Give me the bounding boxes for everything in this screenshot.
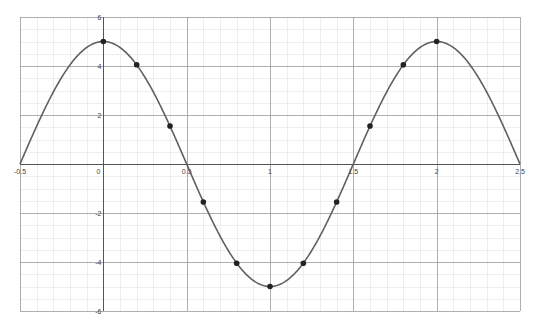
y-tick-label: 4 bbox=[98, 63, 102, 70]
data-point bbox=[434, 39, 440, 45]
y-tick-label: 6 bbox=[98, 14, 102, 21]
cosine-plot: -0.500.511.522.5642-2-4-6 bbox=[0, 0, 539, 331]
data-point bbox=[401, 62, 407, 68]
data-point bbox=[267, 284, 273, 290]
data-point bbox=[167, 123, 173, 129]
x-tick-label: 2.5 bbox=[515, 168, 525, 175]
data-point bbox=[234, 260, 240, 266]
x-tick-label: 2 bbox=[435, 168, 439, 175]
x-tick-label: 1 bbox=[268, 168, 272, 175]
data-point bbox=[101, 39, 107, 45]
y-tick-label: 2 bbox=[98, 112, 102, 119]
axes bbox=[20, 17, 520, 311]
data-point bbox=[367, 123, 373, 129]
y-tick-label: -2 bbox=[95, 210, 101, 217]
data-point bbox=[201, 199, 207, 205]
data-point bbox=[301, 260, 307, 266]
x-tick-label: -0.5 bbox=[14, 168, 26, 175]
x-tick-label: 0 bbox=[96, 168, 100, 175]
data-point bbox=[334, 199, 340, 205]
data-point bbox=[134, 62, 140, 68]
y-tick-label: -6 bbox=[95, 308, 101, 315]
y-tick-label: -4 bbox=[95, 259, 101, 266]
